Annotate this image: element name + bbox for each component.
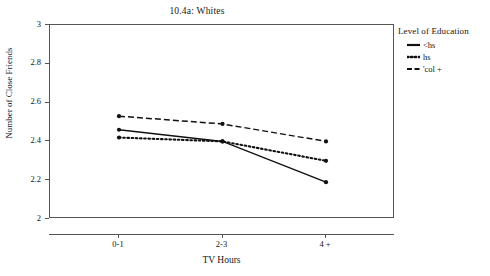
data-point (220, 122, 224, 126)
y-tick-mark (45, 179, 49, 180)
data-point (324, 139, 328, 143)
plot-area (49, 24, 394, 218)
legend-label: hs (423, 53, 431, 62)
x-axis-title: TV Hours (49, 255, 394, 265)
legend-swatch-dash-dot-icon (407, 65, 420, 73)
legend: Level of Education <hshs'col + (398, 26, 490, 77)
y-axis-title: Number of Close Friends (4, 8, 14, 178)
y-tick-mark (45, 218, 49, 219)
legend-item-col[interactable]: 'col + (407, 65, 490, 74)
x-tick-label: 4 + (295, 240, 355, 249)
x-axis-line (49, 234, 394, 235)
y-tick-mark (45, 63, 49, 64)
plot-svg (50, 25, 395, 219)
chart-title: 10.4a: Whites (0, 6, 394, 16)
y-tick-label: 2.6 (11, 97, 41, 106)
legend-label: 'col + (423, 65, 442, 74)
data-point (117, 114, 121, 118)
data-point (220, 139, 224, 143)
legend-item-hs[interactable]: hs (407, 53, 490, 62)
y-tick-mark (45, 140, 49, 141)
y-tick-label: 2 (11, 214, 41, 223)
y-tick-mark (45, 102, 49, 103)
legend-swatch-dotted-icon (407, 53, 420, 61)
data-point (324, 180, 328, 184)
chart-figure: 10.4a: Whites 32.82.62.42.22 0-12-34 + N… (0, 0, 490, 276)
x-tick-label: 2-3 (192, 240, 252, 249)
legend-item-hs[interactable]: <hs (407, 41, 490, 50)
legend-swatch-solid-icon (407, 41, 420, 49)
data-point (117, 135, 121, 139)
series-line-col (119, 116, 326, 141)
legend-label: <hs (423, 41, 435, 50)
y-tick-label: 2.2 (11, 175, 41, 184)
y-tick-mark (45, 24, 49, 25)
x-tick-label: 0-1 (88, 240, 148, 249)
y-tick-label: 2.4 (11, 136, 41, 145)
legend-title: Level of Education (398, 26, 490, 36)
y-tick-label: 3 (11, 20, 41, 29)
data-point (117, 128, 121, 132)
y-tick-label: 2.8 (11, 58, 41, 67)
data-point (324, 159, 328, 163)
